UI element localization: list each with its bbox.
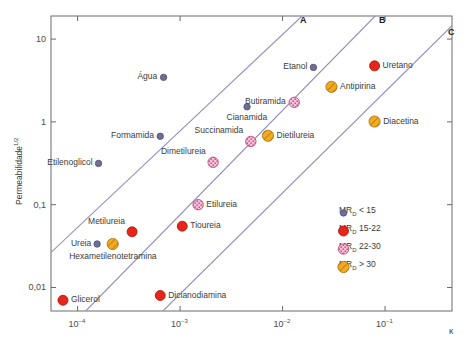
data-point-marker xyxy=(177,221,187,231)
data-point-label: Diacetina xyxy=(383,117,418,126)
legend-item-range: 22-30 xyxy=(357,241,381,251)
data-point-marker xyxy=(160,74,166,80)
permeability-scatter-figure: 10–410–310–210–11010,10,01 ÁguaEtanolUre… xyxy=(0,0,471,350)
data-point-marker xyxy=(369,116,380,127)
data-point-label: Dimetilureia xyxy=(161,147,206,156)
y-axis-title: Permeabilidade1/2 xyxy=(13,138,24,205)
data-point-marker xyxy=(95,160,101,166)
legend-swatch-orange-icon xyxy=(336,260,351,274)
y-tick-label: 1 xyxy=(20,118,46,127)
data-point-label: Dietilureia xyxy=(277,131,315,140)
data-point-marker xyxy=(289,97,299,107)
data-point-label: Glicerol xyxy=(71,295,100,304)
x-tick-label: 10–2 xyxy=(274,318,291,329)
legend-swatch-pink-icon xyxy=(336,242,351,256)
data-point-label: Uretano xyxy=(383,61,413,70)
data-point-marker xyxy=(310,64,316,70)
x-tick-label: 10–4 xyxy=(69,318,86,329)
data-point-label: Ureia xyxy=(71,239,91,248)
data-point-marker xyxy=(157,133,163,139)
y-axis-title-exponent: 1/2 xyxy=(13,138,19,146)
data-point-label: Água xyxy=(137,72,157,81)
legend-item-range: < 15 xyxy=(357,205,376,215)
legend-item: MRD 15-22 xyxy=(336,224,381,235)
data-point-marker xyxy=(262,130,273,141)
data-point-label: Antipirina xyxy=(340,82,375,91)
data-point-label: Hexametilenotetramina xyxy=(69,252,156,261)
legend-swatch-red-icon xyxy=(336,224,351,238)
y-tick-label: 0,01 xyxy=(20,283,46,292)
data-point-label: Metilureia xyxy=(88,217,125,226)
data-point-label: Etilureia xyxy=(206,200,237,209)
data-markers xyxy=(58,61,380,305)
x-tick-label: 10–1 xyxy=(376,318,393,329)
data-point-marker xyxy=(155,291,165,301)
data-point-label: Etilenoglicol xyxy=(47,158,92,167)
curve-label-b: B xyxy=(379,15,386,25)
data-point-marker xyxy=(370,61,380,71)
x-tick-label: 10–3 xyxy=(171,318,188,329)
legend-item: MRD 22-30 xyxy=(336,242,381,253)
curve-label-a: A xyxy=(300,15,307,25)
data-point-label: Succinamida xyxy=(195,126,244,135)
curve-label-c: C xyxy=(448,27,455,37)
data-point-label: Dicianodiamina xyxy=(168,291,226,300)
legend-swatch-small-purple-icon xyxy=(336,206,351,220)
data-point-marker xyxy=(94,241,100,247)
y-tick-label: 0,1 xyxy=(20,201,46,210)
data-point-marker xyxy=(326,81,337,92)
data-point-label: Formamida xyxy=(111,131,154,140)
data-point-label: Tioureia xyxy=(190,221,220,230)
legend-item-range: 15-22 xyxy=(357,223,381,233)
legend-item-range: > 30 xyxy=(357,259,376,269)
y-axis-title-text: Permeabilidade xyxy=(14,146,24,205)
data-point-marker xyxy=(58,295,68,305)
legend-item: MRD < 15 xyxy=(336,206,376,217)
x-axis-title: κ xyxy=(449,326,453,336)
data-point-label: Etanol xyxy=(283,62,307,71)
data-point-marker xyxy=(246,136,256,146)
data-point-marker xyxy=(193,199,203,209)
legend-item: MRD > 30 xyxy=(336,260,376,271)
data-point-marker xyxy=(107,238,118,249)
data-point-marker xyxy=(127,227,137,237)
y-tick-label: 10 xyxy=(20,35,46,44)
data-point-label: Cianamida xyxy=(227,113,268,122)
data-point-marker xyxy=(208,157,218,167)
data-point-label: Butiramida xyxy=(245,97,286,106)
